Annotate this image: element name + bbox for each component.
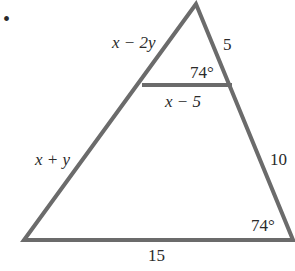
label-upper-right-side: 5 <box>223 36 232 53</box>
outer-triangle <box>24 4 293 240</box>
label-upper-left-side: x − 2y <box>112 34 156 51</box>
label-base: 15 <box>148 247 165 264</box>
label-inner-angle: 74° <box>190 64 214 81</box>
label-bottom-angle: 74° <box>251 217 275 234</box>
bullet-marker: • <box>3 9 10 29</box>
label-inner-segment: x − 5 <box>165 93 201 110</box>
label-lower-left-side: x + y <box>35 151 70 168</box>
triangle-diagram: • x − 2y 5 74° x − 5 x + y 10 74° 15 <box>0 0 295 271</box>
label-lower-right-side: 10 <box>270 151 287 168</box>
